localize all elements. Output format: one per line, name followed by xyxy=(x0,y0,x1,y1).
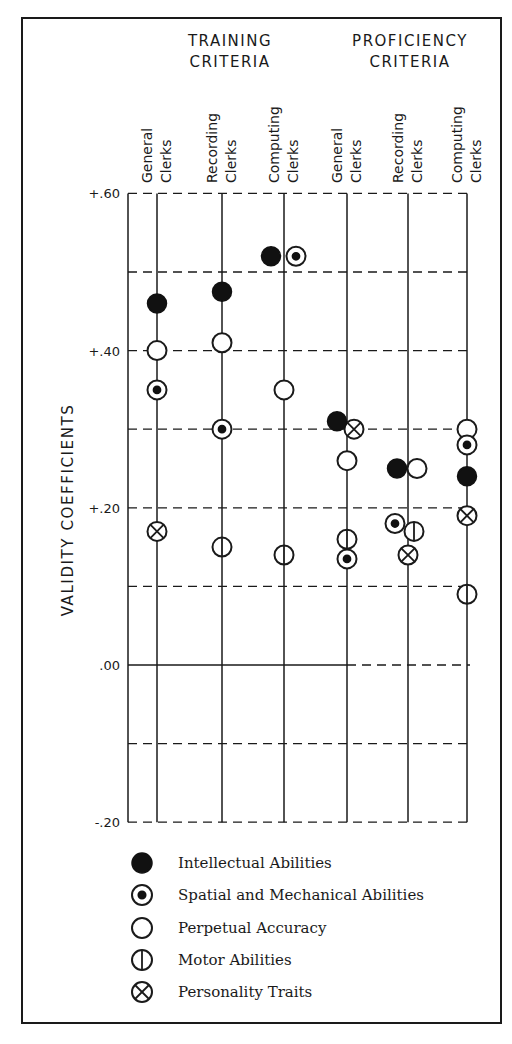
category-label: ComputingClerks xyxy=(266,106,301,183)
group-title-proficiency-line1: PROFICIENCY xyxy=(352,32,468,50)
dotted-circle-icon xyxy=(132,885,152,905)
legend-item: Intellectual Abilities xyxy=(132,853,332,873)
spatial-point xyxy=(338,549,357,568)
y-tick-label: +.20 xyxy=(88,501,120,516)
perceptual-point xyxy=(338,451,357,470)
x-circle-icon xyxy=(132,982,152,1002)
category-label: ComputingClerks xyxy=(449,106,484,183)
category-label-line1: Recording xyxy=(204,113,220,183)
perceptual-point xyxy=(213,333,232,352)
outer-frame xyxy=(22,18,501,1023)
category-label: RecordingClerks xyxy=(204,113,239,183)
legend-item: Personality Traits xyxy=(132,982,312,1002)
category-label-line2: Clerks xyxy=(223,140,239,183)
legend-label: Intellectual Abilities xyxy=(178,854,332,872)
vertical-bar-circle-icon xyxy=(132,950,152,970)
legend-label: Perpetual Accuracy xyxy=(178,919,327,937)
motor-point xyxy=(213,538,232,557)
legend-label: Personality Traits xyxy=(178,983,312,1001)
gridlines xyxy=(128,193,470,822)
intellectual-point xyxy=(388,459,407,478)
category-label-line2: Clerks xyxy=(158,140,174,183)
y-tick-label: +.60 xyxy=(88,186,120,201)
y-axis-label: VALIDITY COEFFICIENTS xyxy=(59,404,77,617)
category-label-line1: General xyxy=(329,128,345,183)
personality-point xyxy=(148,522,167,541)
filled-circle-icon xyxy=(132,853,152,873)
legend-label: Motor Abilities xyxy=(178,951,292,969)
personality-point xyxy=(458,506,477,525)
spatial-point xyxy=(386,514,405,533)
intellectual-point xyxy=(148,294,167,313)
category-label-line2: Clerks xyxy=(348,140,364,183)
data-points xyxy=(148,247,477,604)
group-title-training-line2: CRITERIA xyxy=(189,53,270,71)
y-tick-label: .00 xyxy=(99,658,120,673)
spatial-point xyxy=(213,420,232,439)
category-label-line1: Computing xyxy=(266,106,282,183)
category-label: GeneralClerks xyxy=(329,128,364,183)
intellectual-point xyxy=(213,282,232,301)
legend-item: Spatial and Mechanical Abilities xyxy=(132,885,424,905)
category-label-line2: Clerks xyxy=(468,140,484,183)
y-tick-label: +.40 xyxy=(88,344,120,359)
category-label-line2: Clerks xyxy=(285,140,301,183)
perceptual-point xyxy=(148,341,167,360)
column-headers: TRAINING CRITERIA PROFICIENCY CRITERIA xyxy=(187,32,468,71)
category-labels: GeneralClerksRecordingClerksComputingCle… xyxy=(139,106,484,183)
y-tick-label: -.20 xyxy=(95,815,120,830)
open-circle-icon xyxy=(132,918,152,938)
perceptual-point xyxy=(408,459,427,478)
category-label: GeneralClerks xyxy=(139,128,174,183)
intellectual-point xyxy=(458,467,477,486)
spatial-point xyxy=(148,380,167,399)
intellectual-point xyxy=(262,247,281,266)
legend: Intellectual AbilitiesSpatial and Mechan… xyxy=(132,853,424,1002)
legend-item: Motor Abilities xyxy=(132,950,292,970)
y-axis-ticks: +.60+.40+.20.00-.20 xyxy=(88,186,120,830)
validity-coefficients-chart: TRAINING CRITERIA PROFICIENCY CRITERIA G… xyxy=(0,0,512,1044)
motor-point xyxy=(458,585,477,604)
category-label: RecordingClerks xyxy=(390,113,425,183)
motor-point xyxy=(405,522,424,541)
category-label-line1: Recording xyxy=(390,113,406,183)
perceptual-point xyxy=(275,380,294,399)
legend-item: Perpetual Accuracy xyxy=(132,918,327,938)
spatial-point xyxy=(458,435,477,454)
category-label-line2: Clerks xyxy=(409,140,425,183)
category-label-line1: General xyxy=(139,128,155,183)
group-title-training-line1: TRAINING xyxy=(187,32,272,50)
category-label-line1: Computing xyxy=(449,106,465,183)
intellectual-point xyxy=(328,412,347,431)
motor-point xyxy=(275,545,294,564)
legend-label: Spatial and Mechanical Abilities xyxy=(178,886,424,904)
motor-point xyxy=(338,530,357,549)
spatial-point xyxy=(287,247,306,266)
group-title-proficiency-line2: CRITERIA xyxy=(369,53,450,71)
personality-point xyxy=(345,420,364,439)
personality-point xyxy=(399,545,418,564)
